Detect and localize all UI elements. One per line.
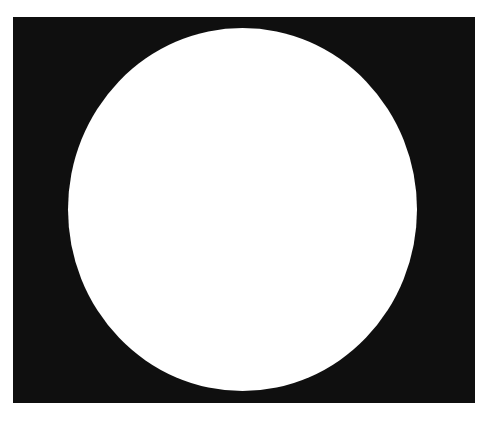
white-circle bbox=[68, 28, 417, 391]
black-square-frame bbox=[13, 17, 475, 403]
